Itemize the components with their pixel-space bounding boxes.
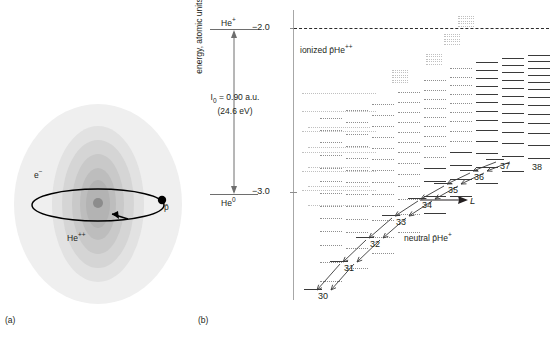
cascade-step-label-35: 35 bbox=[448, 185, 458, 195]
cascade-arrow-0-3 bbox=[395, 201, 418, 216]
antiproton-orbit-ellipse bbox=[32, 189, 164, 221]
cascade-step-label-30: 30 bbox=[318, 291, 328, 301]
cascade-arrow-0-0 bbox=[473, 162, 496, 171]
figure-root: e− He++ p̄ energy, atomic units −2.0 −3.… bbox=[0, 0, 553, 340]
cascade-step-label-36: 36 bbox=[474, 172, 484, 182]
antiproton-label: p̄ bbox=[164, 202, 169, 212]
cascade-arrow-0-4 bbox=[369, 218, 392, 238]
panel-a-atom-schematic: e− He++ p̄ bbox=[0, 0, 200, 330]
cascade-step-label-37: 37 bbox=[500, 161, 510, 171]
cascade-arrow-1-3-head bbox=[409, 211, 414, 216]
column-number-38: 38 bbox=[532, 162, 542, 172]
panel-a-tag: (a) bbox=[5, 315, 15, 325]
cascade-arrow-0-5 bbox=[343, 240, 366, 262]
panel-b-tag: (b) bbox=[198, 315, 208, 325]
cascade-arrow-0-3-head bbox=[395, 211, 400, 216]
cascade-step-label-32: 32 bbox=[370, 239, 380, 249]
cascade-arrow-0-6 bbox=[317, 264, 340, 290]
antiproton-orbit-overlay bbox=[0, 0, 200, 330]
helium-nucleus-label: He++ bbox=[67, 231, 85, 243]
panel-b-energy-level-diagram: energy, atomic units −2.0 −3.0 He+ He0 I… bbox=[196, 0, 553, 330]
cascade-arrow-0-1 bbox=[447, 173, 470, 184]
cascade-step-label-33: 33 bbox=[396, 217, 406, 227]
cascade-arrow-0-2 bbox=[421, 186, 444, 199]
electron-label: e− bbox=[34, 168, 43, 180]
cascade-step-label-34: 34 bbox=[422, 200, 432, 210]
cascade-step-label-31: 31 bbox=[344, 263, 354, 273]
